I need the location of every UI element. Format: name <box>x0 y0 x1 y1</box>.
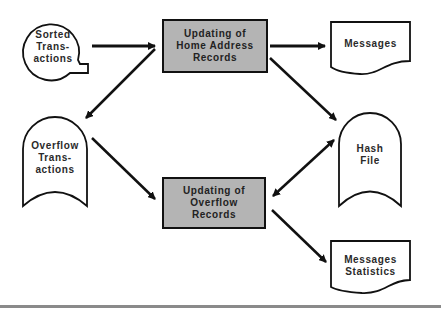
messages-label: Messages <box>331 38 410 50</box>
update-home-address-label: Updating of Home Address Records <box>176 28 253 64</box>
update-overflow-label: Updating of Overflow Records <box>183 185 245 221</box>
arrow-overflow-trans-to-overflow <box>92 138 155 199</box>
arrow-home-to-hash <box>270 58 336 120</box>
arrow-home-to-overflow-trans <box>86 49 155 118</box>
update-home-address-process: Updating of Home Address Records <box>162 19 268 73</box>
hash-file-label: Hash File <box>339 143 401 167</box>
update-overflow-process: Updating of Overflow Records <box>162 177 266 229</box>
arrow-overflow-hash-bidirectional <box>273 140 334 196</box>
overflow-transactions-label: Overflow Trans- actions <box>23 140 87 176</box>
arrow-overflow-to-stats <box>272 210 326 262</box>
bottom-divider <box>0 305 441 308</box>
messages-statistics-label: Messages Statistics <box>331 254 410 278</box>
sorted-transactions-label: Sorted Trans- actions <box>26 29 80 65</box>
